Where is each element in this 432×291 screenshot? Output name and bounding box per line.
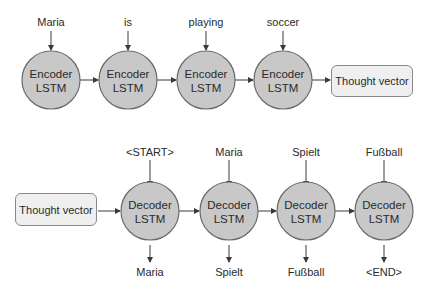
decoder-input-label: Fußball (344, 146, 424, 158)
decoder-node-label: Decoder LSTM (276, 198, 336, 226)
node-label-line1: Encoder (176, 67, 236, 81)
decoder-node-label: Decoder LSTM (120, 198, 180, 226)
node-label-line2: LSTM (120, 212, 180, 226)
encoder-node-label: Encoder LSTM (253, 67, 313, 95)
decoder-input-label: Maria (189, 146, 269, 158)
node-label-line1: Encoder (21, 67, 81, 81)
node-label-line2: LSTM (176, 81, 236, 95)
decoder-output-arrows (150, 245, 384, 262)
node-label-line2: LSTM (98, 81, 158, 95)
encoder-node-label: Encoder LSTM (98, 67, 158, 95)
encoder-input-label: soccer (243, 16, 323, 28)
encoder-node-label: Encoder LSTM (176, 67, 236, 95)
node-label-line1: Decoder (354, 198, 414, 212)
node-label-line1: Decoder (199, 198, 259, 212)
thought-vector-box-encoder: Thought vector (331, 65, 413, 97)
encoder-input-label: is (88, 16, 168, 28)
thought-vector-box-decoder: Thought vector (15, 193, 97, 226)
decoder-input-arrows (150, 160, 384, 186)
encoder-input-label: Maria (11, 16, 91, 28)
decoder-input-label: <START> (110, 146, 190, 158)
decoder-output-label: Spielt (189, 266, 269, 278)
decoder-output-label: <END> (344, 266, 424, 278)
encoder-input-arrows (51, 31, 283, 50)
node-label-line2: LSTM (276, 212, 336, 226)
node-label-line2: LSTM (21, 81, 81, 95)
decoder-node-label: Decoder LSTM (199, 198, 259, 226)
node-label-line2: LSTM (253, 81, 313, 95)
node-label-line2: LSTM (199, 212, 259, 226)
decoder-input-label: Spielt (266, 146, 346, 158)
decoder-output-label: Fußball (266, 266, 346, 278)
encoder-input-label: playing (166, 16, 246, 28)
node-label-line1: Decoder (120, 198, 180, 212)
node-label-line1: Encoder (98, 67, 158, 81)
decoder-output-label: Maria (110, 266, 190, 278)
seq2seq-diagram: Maria is playing soccer Encoder LSTM Enc… (0, 0, 432, 291)
node-label-line1: Encoder (253, 67, 313, 81)
node-label-line2: LSTM (354, 212, 414, 226)
decoder-node-label: Decoder LSTM (354, 198, 414, 226)
encoder-node-label: Encoder LSTM (21, 67, 81, 95)
node-label-line1: Decoder (276, 198, 336, 212)
